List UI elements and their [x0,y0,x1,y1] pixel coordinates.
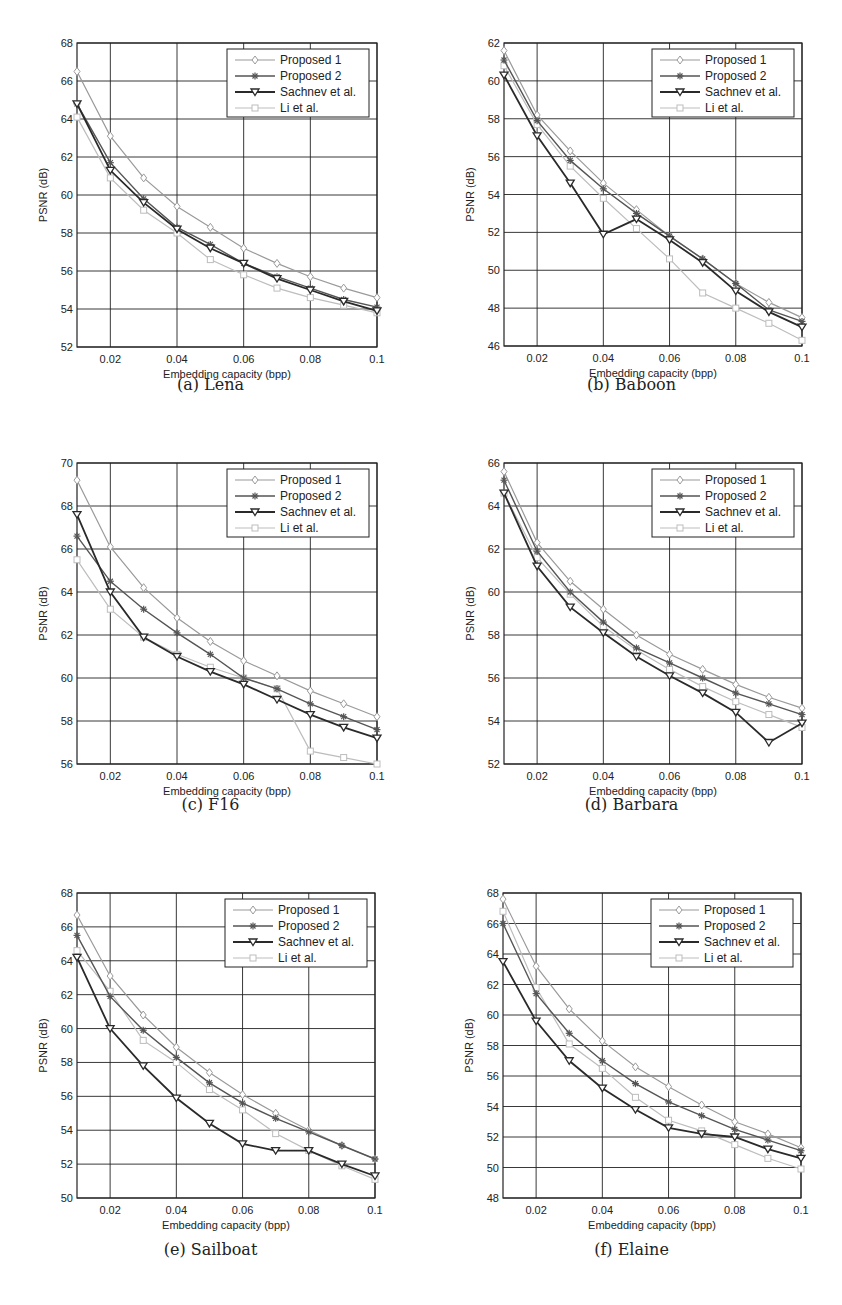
square-marker [732,1142,738,1148]
star-marker [206,1079,213,1086]
x-tick-label: 0.06 [232,1204,253,1216]
star-marker [798,1147,805,1154]
y-tick-label: 58 [487,1040,499,1052]
square-marker [74,557,80,563]
y-tick-label: 60 [487,1009,499,1021]
legend: Proposed 1Proposed 2Sachnev et al.Li et … [227,469,369,537]
diamond-marker [374,294,380,302]
star-marker [534,548,541,555]
y-tick-label: 58 [488,629,500,641]
legend-label: Proposed 2 [280,69,342,83]
y-axis-label: PSNR (dB) [463,1018,475,1072]
legend-label: Proposed 1 [278,903,340,917]
x-tick-label: 0.04 [593,770,614,782]
diamond-marker [500,895,506,903]
x-tick-label: 0.08 [725,770,746,782]
y-tick-label: 68 [487,887,499,899]
triangle-down-marker [798,324,806,331]
triangle-down-marker [206,245,214,252]
star-marker [500,920,507,927]
star-marker [252,73,259,80]
caption-lena: (a) Lena [0,375,421,394]
triangle-down-marker [499,959,507,966]
y-tick-label: 58 [488,113,500,125]
diamond-marker [241,244,247,252]
x-tick-label: 0.02 [100,770,121,782]
legend-label: Proposed 1 [280,473,342,487]
star-marker [698,1112,705,1119]
square-marker [599,1065,605,1071]
x-tick-label: 0.02 [99,1204,120,1216]
star-marker [305,1128,312,1135]
legend-label: Sachnev et al. [280,85,356,99]
y-tick-label: 56 [487,1070,499,1082]
star-marker [600,619,607,626]
series-sachnev-et-al [73,101,381,315]
square-marker [677,105,683,111]
square-marker [676,955,682,961]
x-tick-label: 0.06 [659,352,680,364]
y-tick-label: 58 [61,227,73,239]
y-tick-label: 60 [61,672,73,684]
x-tick-label: 0.04 [592,1204,613,1216]
star-marker [501,477,508,484]
legend-label: Li et al. [704,951,743,965]
diamond-marker [74,476,80,484]
y-tick-label: 52 [487,1131,499,1143]
legend-label: Sachnev et al. [705,505,781,519]
star-marker [207,651,214,658]
x-tick-label: 0.06 [233,353,254,365]
square-marker [700,684,706,690]
triangle-down-marker [500,72,508,79]
diamond-marker [207,637,213,645]
y-tick-label: 60 [61,189,73,201]
square-marker [240,1107,246,1113]
square-marker [799,337,805,343]
x-tick-label: 0.04 [593,352,614,364]
square-marker [765,1155,771,1161]
y-tick-label: 64 [487,948,499,960]
y-tick-label: 58 [61,1056,73,1068]
legend-label: Proposed 1 [705,473,767,487]
star-marker [731,1126,738,1133]
y-axis-label: PSNR (dB) [37,1018,49,1072]
diamond-marker [341,284,347,292]
legend-label: Proposed 1 [280,53,342,67]
square-marker [733,305,739,311]
square-marker [667,256,673,262]
square-marker [632,1094,638,1100]
caption-elaine: (f) Elaine [421,1240,842,1259]
legend: Proposed 1Proposed 2Sachnev et al.Li et … [225,899,367,967]
diamond-marker [633,631,639,639]
chart-lena: 0.020.040.060.080.1525456586062646668Emb… [0,0,421,420]
star-marker [372,1156,379,1163]
y-tick-label: 54 [488,715,500,727]
series-sachnev-et-al [499,959,805,1162]
y-tick-label: 50 [488,264,500,276]
legend-label: Sachnev et al. [280,505,356,519]
diamond-marker [274,259,280,267]
square-marker [633,226,639,232]
star-marker [534,117,541,124]
diamond-marker [700,665,706,673]
y-tick-label: 48 [488,302,500,314]
legend-label: Li et al. [280,521,319,535]
x-tick-label: 0.08 [724,1204,745,1216]
diamond-marker [241,657,247,665]
caption-sailboat: (e) Sailboat [0,1240,421,1259]
square-marker [252,525,258,531]
y-tick-label: 56 [488,151,500,163]
diamond-marker [699,1101,705,1109]
x-tick-label: 0.1 [367,1204,382,1216]
legend-label: Proposed 2 [704,919,766,933]
triangle-down-marker [797,1155,805,1162]
chart-svg: 0.020.040.060.080.15254565860626466Embed… [421,420,842,840]
y-tick-label: 58 [61,715,73,727]
star-marker [566,1030,573,1037]
star-marker [666,659,673,666]
y-tick-label: 62 [487,979,499,991]
x-axis-label: Embedding capacity (bpp) [588,1219,716,1231]
triangle-down-marker [599,231,607,238]
star-marker [174,629,181,636]
legend-label: Proposed 1 [704,903,766,917]
